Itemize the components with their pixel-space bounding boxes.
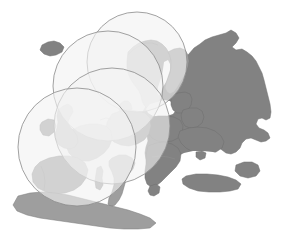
coverage-circle-west: [18, 88, 136, 206]
map-svg-canvas: [0, 0, 286, 238]
europe-coverage-map: [0, 0, 286, 238]
